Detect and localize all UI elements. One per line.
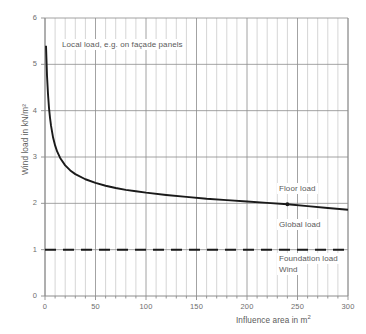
y-tick-label: 1 bbox=[21, 245, 37, 254]
data-point-marker bbox=[286, 202, 290, 206]
superscript-two: 2 bbox=[308, 314, 311, 320]
annotation-floor-load: Floor load bbox=[277, 183, 318, 194]
annotation-global-load: Global load bbox=[277, 219, 323, 230]
plot-canvas bbox=[0, 0, 366, 334]
data-point-markers bbox=[286, 202, 290, 206]
y-tick-label: 3 bbox=[21, 152, 37, 161]
x-tick-label: 0 bbox=[32, 302, 58, 311]
x-axis-title: Influence area in m2 bbox=[236, 314, 311, 325]
x-tick-label: 250 bbox=[285, 302, 311, 311]
x-axis-title-text: Influence area in m2 bbox=[236, 316, 311, 325]
y-tick-label: 0 bbox=[21, 291, 37, 300]
y-axis-title: Wind load in kN/m² bbox=[21, 75, 30, 205]
y-tick-label: 4 bbox=[21, 106, 37, 115]
x-tick-label: 150 bbox=[184, 302, 210, 311]
wind-load-chart: Wind load in kN/m² Influence area in m2 … bbox=[0, 0, 366, 334]
annotation-foundation-load: Foundation load bbox=[277, 253, 340, 264]
x-tick-label: 200 bbox=[234, 302, 260, 311]
annotation-local-load: Local load, e.g. on façade panels bbox=[60, 39, 185, 50]
x-tick-label: 300 bbox=[335, 302, 361, 311]
y-tick-label: 2 bbox=[21, 198, 37, 207]
x-tick-label: 100 bbox=[133, 302, 159, 311]
y-tick-label: 5 bbox=[21, 59, 37, 68]
y-tick-label: 6 bbox=[21, 13, 37, 22]
x-tick-label: 50 bbox=[83, 302, 109, 311]
annotation-wind: Wind bbox=[277, 264, 300, 275]
